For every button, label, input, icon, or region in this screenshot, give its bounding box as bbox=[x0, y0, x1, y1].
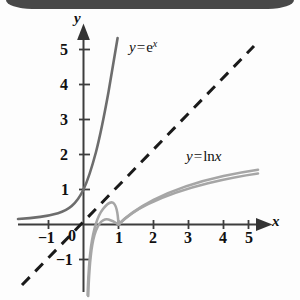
y-axis-label: y bbox=[74, 11, 81, 26]
y-tick-label-3: 3 bbox=[60, 112, 68, 128]
exp-label-exponent: x bbox=[153, 38, 157, 49]
log-curve bbox=[88, 170, 258, 295]
origin-label: 0 bbox=[68, 228, 76, 244]
log-label-fn: ln bbox=[203, 148, 215, 164]
graph-figure: y x 0 5 4 3 2 1 −1 −1 1 2 3 4 5 y=ex y=l… bbox=[0, 0, 300, 300]
y-tick-label-5: 5 bbox=[60, 42, 68, 58]
log-label-lhs: y bbox=[186, 148, 193, 164]
x-tick-label-neg1: −1 bbox=[38, 230, 55, 246]
y-tick-label-neg1: −1 bbox=[56, 252, 73, 268]
x-tick-label-5: 5 bbox=[245, 230, 253, 246]
x-tick-label-1: 1 bbox=[115, 230, 123, 246]
exp-label-lhs: y bbox=[129, 39, 136, 55]
log-label-equals: = bbox=[193, 148, 203, 164]
y-tick-label-2: 2 bbox=[60, 147, 68, 163]
identity-line bbox=[22, 46, 254, 285]
log-label-arg: x bbox=[215, 148, 222, 164]
x-tick-label-4: 4 bbox=[219, 230, 227, 246]
x-axis-label: x bbox=[272, 214, 280, 229]
exp-label-equals: = bbox=[136, 39, 146, 55]
x-tick-label-2: 2 bbox=[149, 230, 157, 246]
exp-label-base: e bbox=[146, 39, 153, 55]
x-tick-label-3: 3 bbox=[184, 230, 192, 246]
y-tick-label-4: 4 bbox=[60, 77, 68, 93]
y-tick-label-1: 1 bbox=[61, 182, 69, 198]
log-curve-label: y=lnx bbox=[186, 149, 221, 164]
exp-curve-label: y=ex bbox=[129, 38, 157, 55]
